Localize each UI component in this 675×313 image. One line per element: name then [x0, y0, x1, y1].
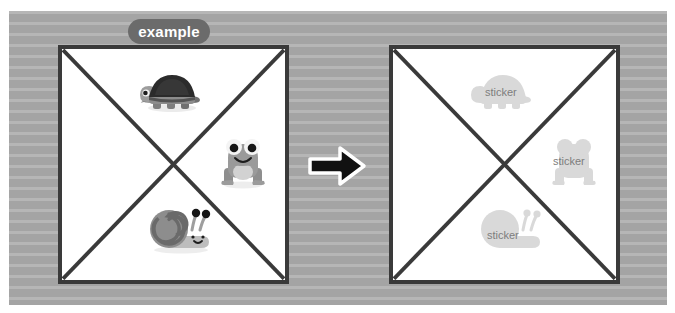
right-arrow-icon — [306, 144, 368, 188]
example-badge-label: example — [138, 23, 199, 40]
frog-sticker[interactable] — [219, 134, 267, 190]
frog-placeholder[interactable] — [550, 134, 598, 190]
illustration-canvas: sticker sticker sticker example — [0, 0, 675, 313]
example-badge: example — [128, 19, 210, 44]
snail-sticker[interactable] — [148, 204, 214, 254]
snail-placeholder[interactable] — [479, 204, 545, 254]
turtle-sticker[interactable] — [139, 68, 205, 116]
turtle-placeholder[interactable] — [470, 68, 536, 116]
